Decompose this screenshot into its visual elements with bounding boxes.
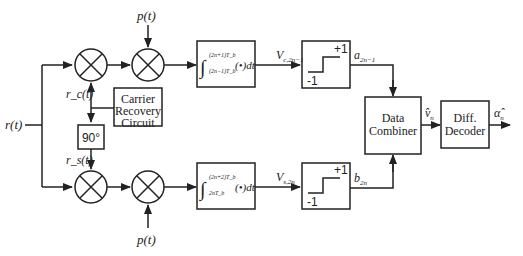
integral-sign-bottom: ∫ bbox=[198, 178, 207, 202]
integral-sign-top: ∫ bbox=[198, 56, 207, 80]
slicer-bottom-low: -1 bbox=[307, 195, 318, 209]
slicer-top-low: -1 bbox=[307, 74, 318, 88]
slicer-top-high: +1 bbox=[334, 42, 348, 56]
integral-lower-top: (2n−1)T_b bbox=[209, 68, 235, 75]
input-label: r(t) bbox=[5, 117, 22, 132]
v-top-label: Vc,2n−1 bbox=[276, 48, 303, 64]
receiver-diagram: r(t) p(t) p(t) r_c(t) r_s(t) Carrier Rec… bbox=[0, 0, 523, 256]
integral-lower-bottom: 2nT_b bbox=[209, 190, 224, 196]
diff-decoder-line2: Decoder bbox=[445, 124, 486, 138]
data-combiner-line1: Data bbox=[382, 111, 405, 125]
integral-body-bottom: (•)dt bbox=[235, 181, 256, 194]
slicer-bottom-high: +1 bbox=[334, 163, 348, 177]
b-out-label: b2n bbox=[354, 171, 368, 187]
integral-body-top: (•)dt bbox=[235, 59, 256, 72]
carrier-recovery-line3: Circuit bbox=[121, 116, 155, 130]
sin-ref-label: r_s(t) bbox=[66, 153, 93, 167]
pulse-label-bottom: p(t) bbox=[136, 232, 156, 247]
v-bottom-label: Vs,2n bbox=[276, 170, 295, 186]
pulse-label-top: p(t) bbox=[136, 8, 156, 23]
data-combiner-line2: Combiner bbox=[369, 124, 417, 138]
integral-upper-top: (2n+1)T_b bbox=[209, 52, 235, 59]
a-out-label: a2n−1 bbox=[354, 48, 375, 64]
cos-ref-label: r_c(t) bbox=[66, 87, 93, 101]
integral-upper-bottom: (2n+2)T_b bbox=[209, 174, 235, 181]
phase-shift-label: 90° bbox=[82, 131, 100, 145]
diff-decoder-line1: Diff. bbox=[454, 111, 477, 125]
alpha-hat-label: α̂n bbox=[494, 106, 505, 122]
v-hat-label: v̂n bbox=[425, 106, 434, 122]
